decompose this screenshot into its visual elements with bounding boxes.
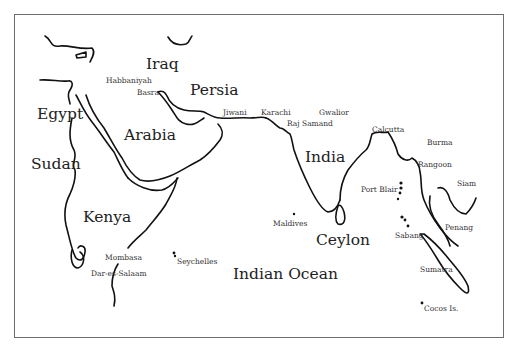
sumatra-island — [420, 234, 469, 293]
label-sabang: Sabang — [395, 232, 424, 240]
coast-siam — [438, 188, 476, 214]
label-rangoon: Rangoon — [418, 161, 452, 169]
label-sumatra: Sumatra — [420, 266, 453, 274]
label-cocos-islands: Cocos Is. — [424, 305, 458, 313]
label-gwalior: Gwalior — [319, 109, 349, 117]
label-dar-es-salaam: Dar-es-Salaam — [91, 270, 147, 278]
label-sudan: Sudan — [31, 157, 81, 173]
label-habbaniyah: Habbaniyah — [106, 77, 152, 85]
label-india: India — [305, 150, 345, 166]
label-indian-ocean: Indian Ocean — [233, 267, 338, 283]
border-egypt-sudan — [65, 118, 85, 260]
label-basra: Basra — [137, 89, 159, 97]
coast-malay-peninsula — [429, 196, 450, 246]
coastline-map — [0, 0, 525, 356]
label-jiwani: Jiwani — [223, 109, 247, 117]
label-maldives: Maldives — [273, 220, 307, 228]
label-mombasa: Mombasa — [105, 254, 142, 262]
coast-gulf-of-aden — [128, 178, 178, 190]
label-raj-samand: Raj Samand — [287, 120, 333, 128]
coast-caspian — [168, 36, 192, 45]
label-burma: Burma — [427, 139, 453, 147]
label-karachi: Karachi — [261, 109, 291, 117]
label-penang: Penang — [445, 224, 473, 232]
coast-turkey — [45, 36, 94, 62]
label-seychelles: Seychelles — [177, 258, 217, 266]
label-iraq: Iraq — [146, 57, 179, 73]
label-ceylon: Ceylon — [316, 233, 370, 249]
ceylon-island — [336, 205, 345, 224]
coast-red-sea-west — [76, 95, 128, 178]
label-arabia: Arabia — [124, 128, 176, 144]
label-egypt: Egypt — [37, 107, 83, 123]
coast-horn-of-africa — [128, 178, 177, 248]
cyprus — [76, 52, 86, 58]
label-kenya: Kenya — [83, 210, 131, 226]
label-persia: Persia — [190, 83, 238, 99]
coast-north-africa — [40, 80, 72, 104]
label-port-blair: Port Blair — [361, 186, 398, 194]
label-calcutta: Calcutta — [372, 126, 404, 134]
label-siam: Siam — [457, 180, 476, 188]
